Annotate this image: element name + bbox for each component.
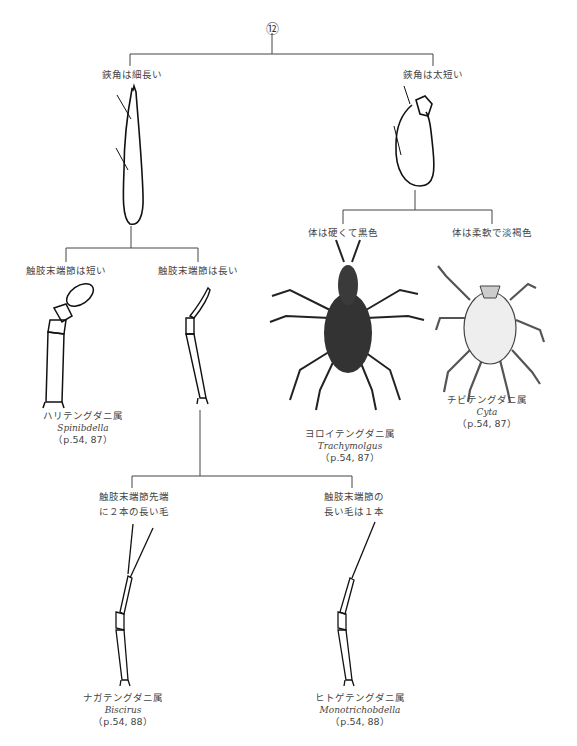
taxon-monotrichobdella: ヒトゲテングダニ属 Monotrichobdella （p.54, 88） <box>300 692 420 728</box>
taxon-spinibdella: ハリテングダニ属 Spinibdella （p.54, 87） <box>28 410 138 446</box>
taxon-trachymolgus: ヨロイテングダニ属 Trachymolgus （p.54, 87） <box>290 428 410 464</box>
two-hair-palp-illustration <box>116 524 153 686</box>
cyta-mite-illustration <box>436 266 544 402</box>
branch-label-one-long-hair: 触肢末端節の 長い毛は１本 <box>316 489 392 519</box>
key-connector-lines <box>0 0 577 746</box>
slender-chelicera-illustration <box>116 86 143 224</box>
branch-label-soft-pale-body: 体は柔軟で淡褐色 <box>442 225 542 239</box>
branch-label-slender-chelicerae: 鋏角は細長い <box>92 67 172 81</box>
branch-label-short-palp-tip: 触肢末端節は短い <box>20 263 112 277</box>
long-palp-illustration <box>186 288 210 404</box>
taxon-cyta: チビテングダニ属 Cyta （p.54, 87） <box>432 394 542 430</box>
branch-label-long-palp-tip: 触肢末端節は長い <box>152 263 244 277</box>
branch-label-two-long-hairs: 触肢末端節先端 に２本の長い毛 <box>92 489 176 519</box>
branch-label-hard-black-body: 体は硬くて黒色 <box>298 225 388 239</box>
branch-label-stout-chelicerae: 鋏角は太短い <box>393 67 473 81</box>
stout-chelicera-illustration <box>394 86 434 186</box>
short-palp-illustration <box>43 279 97 408</box>
one-hair-palp-illustration <box>338 522 375 686</box>
taxon-biscirus: ナガテングダニ属 Biscirus （p.54, 88） <box>68 692 178 728</box>
key-node-number: ⑫ <box>257 18 287 37</box>
trachymolgus-mite-illustration <box>270 240 424 410</box>
